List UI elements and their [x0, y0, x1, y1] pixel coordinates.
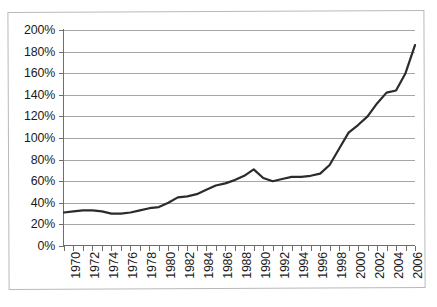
x-axis-tick — [235, 246, 236, 251]
x-axis-tick — [149, 246, 150, 251]
x-axis-tick — [406, 246, 407, 251]
x-axis-tick — [396, 246, 397, 251]
x-axis-tick — [273, 246, 274, 251]
plot-area — [64, 30, 415, 246]
x-axis-tick — [140, 246, 141, 251]
x-axis-tick-label: 1982 — [183, 252, 197, 279]
x-axis-tick — [206, 246, 207, 251]
x-axis-tick — [130, 246, 131, 251]
x-axis-tick-label: 1980 — [164, 252, 178, 279]
x-axis-tick — [187, 246, 188, 251]
line-chart: 200%180%160%140%120%100%80%60%40%20%0% 1… — [0, 0, 437, 307]
x-axis-tick — [225, 246, 226, 251]
y-axis-tick-label: 80% — [31, 153, 55, 167]
x-axis-tick — [102, 246, 103, 251]
x-axis-tick — [254, 246, 255, 251]
x-axis-tick — [73, 246, 74, 251]
x-axis-tick — [339, 246, 340, 251]
x-axis-tick — [311, 246, 312, 251]
x-axis-tick — [216, 246, 217, 251]
y-axis-labels: 200%180%160%140%120%100%80%60%40%20%0% — [0, 0, 62, 307]
x-axis-tick-label: 1988 — [240, 252, 254, 279]
y-axis-tick-label: 140% — [24, 88, 55, 102]
x-axis-labels: 1970197219741976197819801982198419861988… — [64, 252, 415, 307]
x-axis-tick — [377, 246, 378, 251]
x-axis-tick — [292, 246, 293, 251]
x-axis-tick — [64, 246, 65, 251]
x-axis-tick-label: 1972 — [88, 252, 102, 279]
x-axis-tick-label: 2002 — [373, 252, 387, 279]
x-axis-tick — [121, 246, 122, 251]
x-axis-tick-label: 1996 — [316, 252, 330, 279]
x-axis-tick-label: 1978 — [145, 252, 159, 279]
x-axis-tick — [244, 246, 245, 251]
x-axis-tick — [349, 246, 350, 251]
x-axis-tick-label: 1976 — [126, 252, 140, 279]
x-axis-tick — [301, 246, 302, 251]
x-axis-tick — [92, 246, 93, 251]
y-axis-tick-label: 40% — [31, 196, 55, 210]
x-axis-tick — [159, 246, 160, 251]
x-axis-tick — [358, 246, 359, 251]
y-axis-tick-label: 200% — [24, 23, 55, 37]
x-axis-tick-label: 1998 — [335, 252, 349, 279]
x-axis-tick — [197, 246, 198, 251]
x-axis-tick — [83, 246, 84, 251]
x-axis-tick — [263, 246, 264, 251]
x-axis-tick-label: 1990 — [259, 252, 273, 279]
x-axis-tick-label: 1974 — [107, 252, 121, 279]
y-axis-tick-label: 100% — [24, 131, 55, 145]
x-axis-tick — [178, 246, 179, 251]
y-axis-tick-label: 0% — [37, 239, 55, 253]
x-axis-tick — [282, 246, 283, 251]
y-axis-tick-label: 60% — [31, 174, 55, 188]
x-axis-tick — [330, 246, 331, 251]
x-axis-tick-label: 2006 — [411, 252, 425, 279]
y-axis-tick-label: 120% — [24, 109, 55, 123]
y-axis-tick-label: 160% — [24, 66, 55, 80]
x-axis-tick — [320, 246, 321, 251]
x-axis-tick — [415, 246, 416, 251]
x-axis-tick — [368, 246, 369, 251]
x-axis-tick — [111, 246, 112, 251]
y-axis-tick-label: 20% — [31, 217, 55, 231]
x-axis-tick — [168, 246, 169, 251]
x-axis-tick-label: 1986 — [221, 252, 235, 279]
x-axis-tick-label: 2004 — [392, 252, 406, 279]
x-axis-tick — [387, 246, 388, 251]
data-series-line — [64, 30, 415, 246]
x-axis-tick-label: 1984 — [202, 252, 216, 279]
x-axis-tick-label: 1992 — [278, 252, 292, 279]
y-axis-tick-label: 180% — [24, 45, 55, 59]
x-axis-tick-label: 2000 — [354, 252, 368, 279]
x-axis-tick-label: 1994 — [297, 252, 311, 279]
x-axis-tick-label: 1970 — [69, 252, 83, 279]
